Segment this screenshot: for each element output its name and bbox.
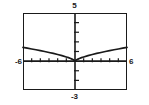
- x-max-label: 6: [129, 57, 147, 66]
- y-min-label: -3: [0, 92, 149, 101]
- graph-window: 5 -3 -6 6: [0, 0, 149, 105]
- plot-canvas: [0, 0, 149, 105]
- y-max-label: 5: [0, 1, 149, 10]
- y-axis: [74, 13, 79, 90]
- x-min-label: -6: [2, 57, 22, 66]
